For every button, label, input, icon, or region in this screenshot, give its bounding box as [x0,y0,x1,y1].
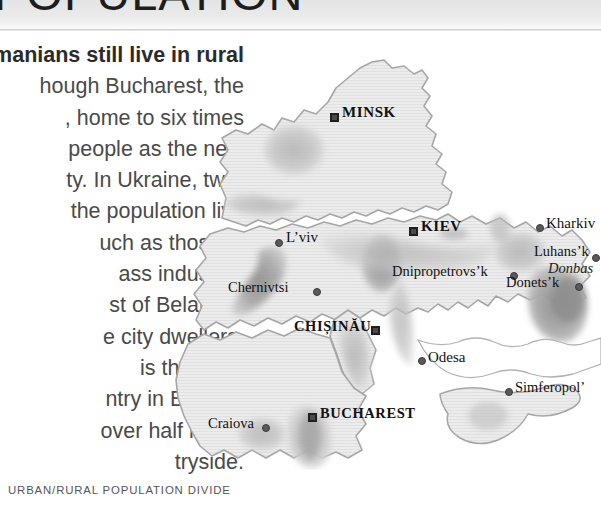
urban-shade-fleck-b [490,214,510,242]
capital-label-minsk[interactable]: MINSK [342,104,396,121]
city-label-luhansk[interactable]: Luhans’k [534,243,589,260]
city-marker-craiova[interactable] [262,424,270,432]
page-heading-band: POPULATION [0,0,601,30]
city-marker-lviv[interactable] [275,239,283,247]
page-heading-text: POPULATION [0,0,303,21]
urban-shade-crimea [468,402,508,430]
urban-shade-minsk [264,125,324,175]
capital-label-chisinau[interactable]: CHIȘINĂU [294,318,371,335]
urban-rural-map: MINSK KIEV CHIȘINĂU BUCHAREST L’viv Khar… [170,38,601,470]
capital-marker-chisinau[interactable] [371,326,380,335]
city-label-chernivtsi[interactable]: Chernivtsi [228,279,288,296]
city-label-craiova[interactable]: Craiova [208,415,254,432]
capital-marker-kiev[interactable] [409,227,418,236]
city-marker-luhansk[interactable] [592,254,600,262]
country-belarus [220,60,452,226]
heading-divider-soft [0,30,601,31]
city-label-dnipropetrovsk[interactable]: Dnipropetrovs’k [392,263,488,280]
city-marker-simferopol[interactable] [505,388,513,396]
atlas-page: POPULATION manians still live in rural h… [0,0,601,508]
city-label-simferopol[interactable]: Simferopol’ [515,379,585,396]
region-label-donbas[interactable]: Donbas [548,260,593,277]
city-marker-donetsk[interactable] [575,283,583,291]
city-label-lviv[interactable]: L’viv [286,229,318,246]
city-marker-odesa[interactable] [418,357,426,365]
capital-label-kiev[interactable]: KIEV [421,218,462,235]
capital-marker-minsk[interactable] [330,113,339,122]
capital-label-bucharest[interactable]: BUCHAREST [320,405,416,422]
city-label-kharkiv[interactable]: Kharkiv [546,215,595,232]
capital-marker-bucharest[interactable] [308,413,317,422]
figure-caption: URBAN/RURAL POPULATION DIVIDE [8,484,231,496]
city-marker-kharkiv[interactable] [536,224,544,232]
city-label-odesa[interactable]: Odesa [428,349,466,366]
city-marker-chernivtsi[interactable] [313,288,321,296]
